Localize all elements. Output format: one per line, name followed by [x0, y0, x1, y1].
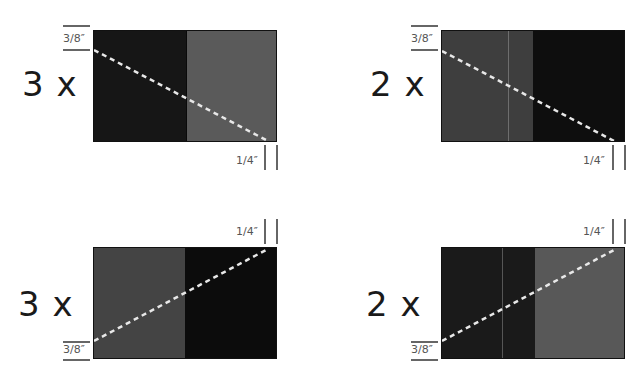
measure-line — [411, 25, 438, 27]
measure-label-1-4: 1/4″ — [236, 226, 258, 238]
multiplier-label: 3 x — [18, 287, 74, 321]
multiplier-label: 2 x — [370, 67, 426, 101]
measure-line — [276, 145, 278, 170]
cut-line-diagonal — [94, 248, 277, 359]
measure-line — [63, 25, 90, 27]
measure-label-3-8: 3/8″ — [63, 33, 85, 45]
measure-line — [264, 219, 266, 244]
fabric-block — [441, 30, 625, 142]
measure-line — [612, 219, 614, 244]
measure-line — [612, 145, 614, 170]
measure-line — [411, 49, 438, 51]
fabric-block — [93, 30, 277, 142]
measure-line — [624, 219, 626, 244]
cut-line-diagonal — [94, 31, 277, 142]
measure-label-1-4: 1/4″ — [583, 155, 605, 167]
fabric-block — [441, 247, 625, 359]
measure-line — [264, 145, 266, 170]
cut-line-diagonal — [442, 31, 625, 142]
measure-line — [411, 359, 438, 361]
cut-line-diagonal — [442, 248, 625, 359]
measure-label-1-4: 1/4″ — [236, 155, 258, 167]
measure-label-3-8: 3/8″ — [411, 344, 433, 356]
multiplier-label: 2 x — [366, 287, 422, 321]
measure-line — [63, 49, 90, 51]
multiplier-label: 3 x — [22, 67, 78, 101]
measure-line — [624, 145, 626, 170]
measure-label-3-8: 3/8″ — [411, 33, 433, 45]
measure-line — [63, 359, 90, 361]
fabric-block — [93, 247, 277, 359]
measure-label-3-8: 3/8″ — [63, 344, 85, 356]
measure-label-1-4: 1/4″ — [583, 226, 605, 238]
measure-line — [276, 219, 278, 244]
